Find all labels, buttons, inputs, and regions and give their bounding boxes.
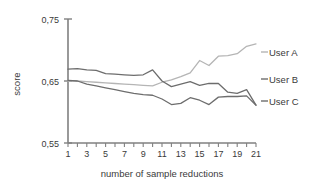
x-axis-tick-label: 11 bbox=[157, 149, 166, 159]
x-axis-tick-label: 13 bbox=[176, 149, 186, 159]
x-axis-tick-label: 21 bbox=[251, 149, 261, 159]
x-axis-tick-label: 1 bbox=[65, 149, 70, 159]
y-axis-tick-label: 0,65 bbox=[41, 77, 59, 87]
line-chart: 0,750,650,55 13579111315171921 User AUse… bbox=[0, 0, 311, 185]
chart-legend: User AUser BUser C bbox=[261, 47, 299, 107]
chart-figure: 0,750,650,55 13579111315171921 User AUse… bbox=[0, 0, 311, 185]
x-axis-tick-label: 7 bbox=[122, 149, 127, 159]
legend-label-user-b: User B bbox=[269, 74, 298, 85]
legend-label-user-a: User A bbox=[269, 47, 298, 58]
y-axis-title: score bbox=[11, 72, 22, 95]
x-axis-tick-label: 5 bbox=[103, 149, 108, 159]
y-axis-tick-labels: 0,750,650,55 bbox=[41, 15, 59, 149]
x-axis-tick-label: 9 bbox=[141, 149, 146, 159]
x-axis-tick-label: 19 bbox=[232, 149, 242, 159]
series-line-user-a bbox=[68, 44, 256, 86]
y-axis-tick-label: 0,55 bbox=[41, 139, 59, 149]
x-axis-tick-label: 3 bbox=[84, 149, 89, 159]
x-axis-tick-label: 15 bbox=[195, 149, 205, 159]
legend-label-user-c: User C bbox=[269, 96, 299, 107]
y-axis-tick-label: 0,75 bbox=[41, 15, 59, 25]
x-axis-ticks bbox=[68, 143, 256, 147]
x-axis-tick-label: 17 bbox=[213, 149, 223, 159]
x-axis-tick-labels: 13579111315171921 bbox=[65, 149, 261, 159]
x-axis-title: number of sample reductions bbox=[101, 168, 224, 179]
data-series-group bbox=[68, 44, 256, 105]
